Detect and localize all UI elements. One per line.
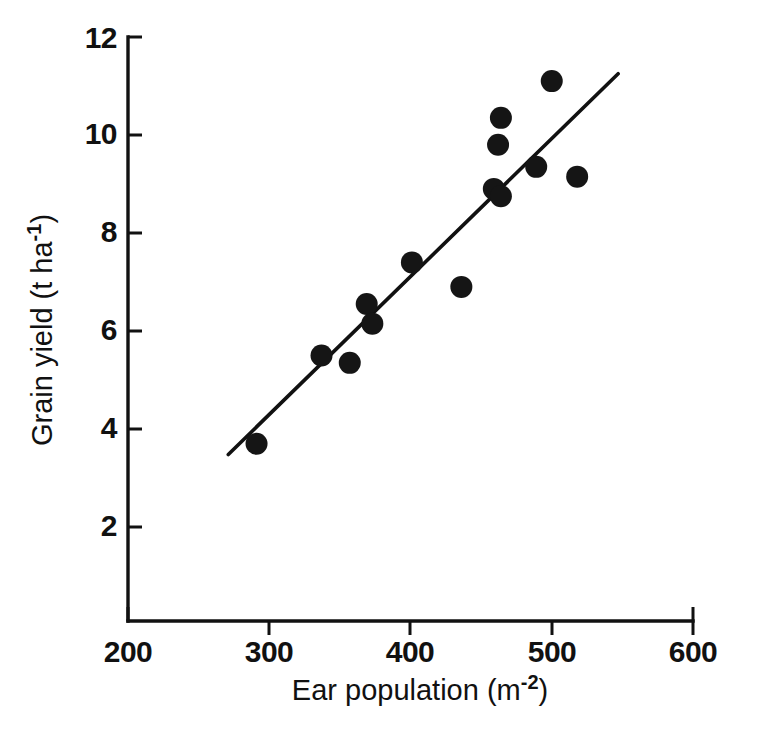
- data-point: [450, 276, 472, 298]
- y-axis-title-close: ): [26, 214, 58, 224]
- data-point: [339, 352, 361, 374]
- data-point: [566, 166, 588, 188]
- x-axis-title-close: ): [539, 674, 549, 706]
- data-points-group: [246, 70, 589, 455]
- y-axis-title: Grain yield (t ha-1): [23, 214, 58, 446]
- chart-figure: 12 10 8 6 4 2 200 300 400 500 600: [0, 0, 758, 735]
- data-point: [487, 134, 509, 156]
- y-tick-label-8: 8: [101, 215, 117, 248]
- x-tick-label-600: 600: [669, 635, 718, 668]
- data-point: [401, 251, 423, 273]
- regression-line: [228, 74, 618, 455]
- x-axis-title: Ear population (m-2): [292, 671, 548, 706]
- x-tick-labels: 200 300 400 500 600: [104, 635, 718, 668]
- x-axis-title-exponent: -2: [521, 671, 539, 693]
- data-point: [246, 433, 268, 455]
- y-tick-label-12: 12: [85, 21, 117, 54]
- axes-group: [128, 37, 693, 621]
- data-point: [525, 156, 547, 178]
- y-tick-label-2: 2: [101, 509, 117, 542]
- x-tick-label-200: 200: [104, 635, 153, 668]
- data-point: [490, 107, 512, 129]
- y-tick-label-4: 4: [101, 411, 118, 444]
- data-point: [541, 70, 563, 92]
- x-axis-title-base: Ear population (m: [292, 674, 521, 706]
- scatter-plot: 12 10 8 6 4 2 200 300 400 500 600: [0, 0, 758, 735]
- y-axis-title-base: Grain yield (t ha: [26, 241, 58, 447]
- y-ticks-group: [128, 135, 142, 527]
- x-tick-label-300: 300: [245, 635, 294, 668]
- data-point: [490, 185, 512, 207]
- x-tick-label-400: 400: [386, 635, 435, 668]
- y-tick-label-6: 6: [101, 313, 117, 346]
- y-axis-title-exponent: -1: [23, 224, 45, 242]
- y-tick-labels: 12 10 8 6 4 2: [85, 21, 118, 542]
- y-tick-label-10: 10: [85, 117, 117, 150]
- data-point: [361, 313, 383, 335]
- x-tick-label-500: 500: [528, 635, 577, 668]
- data-point: [311, 345, 333, 367]
- data-point: [356, 293, 378, 315]
